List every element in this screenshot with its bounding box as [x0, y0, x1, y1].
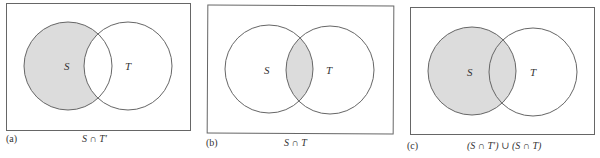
panel-b: S T [207, 5, 394, 134]
set-label-s-a: S [64, 60, 70, 72]
panel-label-c: (c) [407, 140, 418, 151]
venn-diagram-figure: S T S T S T (a) S ∩ T′ (b) S ∩ T (c) (S … [0, 0, 600, 158]
panel-label-a: (a) [6, 133, 17, 144]
set-label-s-b: S [264, 64, 270, 76]
set-label-t-b: T [326, 64, 333, 76]
set-label-t-c: T [530, 66, 537, 78]
caption-c: (S ∩ T′) ∪ (S ∩ T) [467, 140, 541, 151]
set-label-t-a: T [125, 60, 132, 72]
panel-a: S T [7, 4, 191, 131]
panel-label-b: (b) [206, 137, 218, 148]
panel-c: S T [411, 8, 595, 135]
caption-b: S ∩ T [284, 137, 307, 148]
caption-a: S ∩ T′ [82, 133, 107, 144]
set-label-s-c: S [467, 66, 473, 78]
